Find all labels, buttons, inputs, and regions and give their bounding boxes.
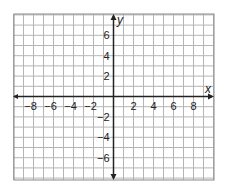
x-tick-label: 2 — [130, 100, 136, 112]
x-tick-label: −8 — [24, 100, 37, 112]
y-tick-label: 6 — [103, 29, 109, 41]
x-tick-label: −4 — [64, 100, 77, 112]
y-tick-label: −6 — [97, 152, 110, 164]
x-tick-label: −6 — [44, 100, 57, 112]
x-tick-label: 8 — [190, 100, 196, 112]
y-tick-label: 4 — [103, 50, 109, 62]
y-axis-arrow-down-icon — [111, 174, 117, 180]
x-tick-labels: −8−6−4−22468 — [24, 100, 196, 112]
x-axis-label: x — [204, 82, 212, 96]
y-axis-label: y — [116, 13, 124, 27]
y-tick-label: −4 — [97, 131, 110, 143]
y-tick-label: −2 — [97, 111, 110, 123]
x-tick-label: 6 — [170, 100, 176, 112]
coordinate-grid: x y −8−6−4−22468 642−2−4−6 — [0, 0, 226, 186]
x-tick-label: −2 — [84, 100, 97, 112]
x-tick-label: 4 — [150, 100, 156, 112]
y-tick-label: 2 — [103, 70, 109, 82]
